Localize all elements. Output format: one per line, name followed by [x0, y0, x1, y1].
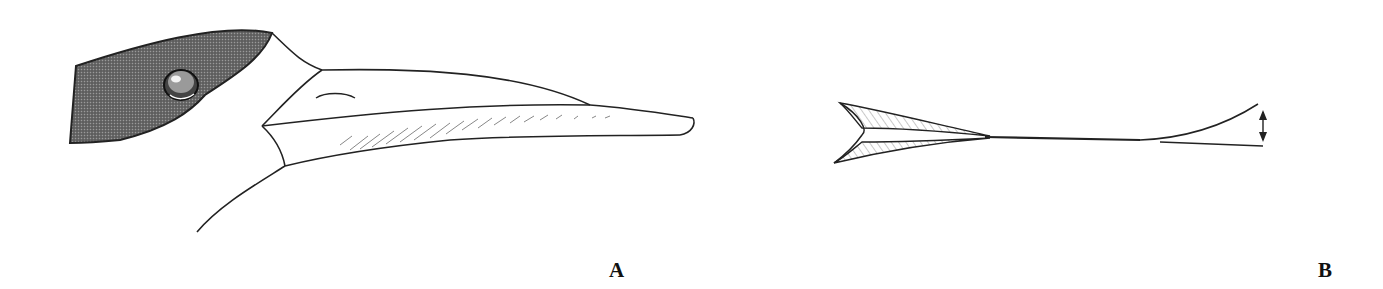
upper-mandible-culmen	[322, 70, 590, 105]
figure-canvas	[0, 0, 1383, 289]
panel-label-a: A	[609, 260, 624, 281]
panel-b-drawing	[834, 103, 1267, 163]
closed-bill-shaft	[985, 137, 1140, 140]
upper-mandible-base-wedge	[840, 103, 990, 136]
lower-bill-base	[262, 126, 285, 166]
throat-line	[197, 166, 285, 232]
forehead-line	[272, 33, 322, 70]
lower-mandible	[285, 135, 680, 166]
lower-mandible-hatching	[340, 115, 610, 150]
panel-label-b: B	[1318, 260, 1332, 281]
bill-tip	[680, 118, 694, 135]
lower-tip	[1160, 142, 1263, 146]
nostril	[316, 94, 355, 99]
gape-double-arrow-icon	[1259, 110, 1267, 142]
eye-icon	[164, 70, 198, 100]
bill-commissure	[262, 105, 693, 126]
upper-bill-base	[262, 70, 322, 126]
panel-a-drawing	[70, 30, 694, 232]
upper-tip	[1140, 104, 1258, 140]
